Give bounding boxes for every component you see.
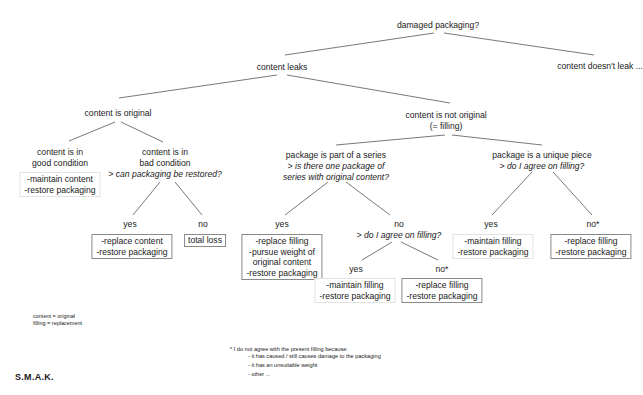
unique-label: package is a unique piece: [492, 150, 591, 161]
footnote-reason: - other ...: [230, 371, 381, 378]
legend: content = original filling = replacement: [33, 313, 82, 327]
action-line: -maintain filling: [319, 280, 390, 291]
node-good-condition: content is in good condition: [32, 147, 88, 169]
action-box-replace-content: -replace content -restore packaging: [91, 234, 172, 259]
action-box-maintain-filling-series: -maintain filling -restore packaging: [314, 278, 395, 303]
action-line: -restore packaging: [246, 268, 317, 279]
question-restore-packaging: > can packaging be restored?: [108, 169, 221, 180]
connector-lines: [0, 0, 643, 395]
label-yes: yes: [349, 264, 362, 275]
action-box-replace-filling-series: -replace filling -pursue weight of origi…: [241, 234, 322, 280]
action-box-total-loss: total loss: [184, 234, 226, 247]
footnote-intro: * I do not agree with the present fillin…: [230, 346, 381, 353]
label-yes: yes: [275, 219, 288, 230]
label-no: no: [357, 219, 442, 230]
series-question-line-1: > is there one package of: [283, 161, 389, 172]
action-box-maintain-filling-unique: -maintain filling -restore packaging: [452, 234, 533, 259]
action-line: -pursue weight of: [246, 247, 317, 258]
question-agree-filling: > do I agree on filling?: [492, 161, 591, 172]
action-line: -replace filling: [406, 280, 477, 291]
good-condition-line-2: good condition: [32, 158, 88, 169]
action-line: -restore packaging: [457, 247, 528, 258]
bad-condition-line-1: content is in: [108, 147, 221, 158]
action-line: total loss: [188, 235, 222, 246]
not-original-line-2: (= filling): [405, 121, 486, 132]
series-question-line-2: series with original content?: [283, 172, 389, 183]
bad-condition-line-2: bad condition: [108, 158, 221, 169]
node-content-leaks: content leaks: [257, 62, 308, 73]
question-agree-filling: > do I agree on filling?: [357, 230, 442, 241]
brand-logo-text: S.M.A.K.: [15, 372, 54, 382]
action-box-good-condition: -maintain content -restore packaging: [19, 172, 100, 197]
legend-line: filling = replacement: [33, 320, 82, 327]
action-line: -replace filling: [246, 236, 317, 247]
node-content-not-original: content is not original (= filling): [405, 110, 486, 132]
action-line: -restore packaging: [319, 291, 390, 302]
node-content-original: content is original: [85, 108, 152, 119]
label-no-asterisk: no*: [436, 264, 449, 275]
action-line: -replace filling: [555, 236, 626, 247]
node-bad-condition: content is in bad condition > can packag…: [108, 147, 221, 179]
action-line: -replace content: [96, 236, 167, 247]
action-line: -restore packaging: [24, 185, 95, 196]
action-line: -restore packaging: [555, 247, 626, 258]
action-line: -maintain filling: [457, 236, 528, 247]
label-yes: yes: [484, 219, 497, 230]
footnote-reason: - it has caused / still causes damage to…: [230, 353, 381, 360]
action-line: -maintain content: [24, 174, 95, 185]
footnote-reason: - it has an unsuitable weight: [230, 362, 381, 369]
series-label: package is part of a series: [283, 150, 389, 161]
root-question: damaged packaging?: [397, 20, 479, 31]
legend-line: content = original: [33, 313, 82, 320]
label-no-asterisk: no*: [587, 219, 600, 230]
footnote: * I do not agree with the present fillin…: [230, 346, 381, 378]
action-line: -restore packaging: [406, 291, 477, 302]
action-box-replace-filling-series-no: -replace filling -restore packaging: [401, 278, 482, 303]
action-line: -restore packaging: [96, 247, 167, 258]
node-package-unique: package is a unique piece > do I agree o…: [492, 150, 591, 172]
node-package-series: package is part of a series > is there o…: [283, 150, 389, 182]
node-content-doesnt-leak: content doesn't leak ...: [557, 61, 643, 72]
action-box-replace-filling-unique: -replace filling -restore packaging: [550, 234, 631, 259]
decision-tree-diagram: damaged packaging? content leaks content…: [0, 0, 643, 395]
not-original-line-1: content is not original: [405, 110, 486, 121]
action-line: original content: [246, 257, 317, 268]
good-condition-line-1: content is in: [32, 147, 88, 158]
label-yes: yes: [123, 219, 136, 230]
node-series-no: no > do I agree on filling?: [357, 219, 442, 241]
label-no: no: [198, 219, 208, 230]
